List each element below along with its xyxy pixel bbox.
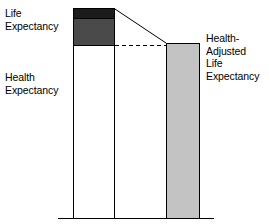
label-health-expectancy: Health Expectancy	[5, 71, 69, 96]
label-life-expectancy: Life Expectancy	[5, 7, 69, 32]
label-health-adjusted-life-expectancy: Health- Adjusted Life Expectancy	[206, 32, 268, 82]
bar-life-expectancy	[74, 9, 115, 219]
segment-severe-ill-health	[74, 9, 115, 19]
health-expectancy-diagram: Life Expectancy Health Expectancy Health…	[0, 0, 269, 224]
segment-ill-health	[74, 18, 115, 45]
segment-health-expectancy	[74, 45, 115, 218]
bar-health-adjusted-life-expectancy	[167, 44, 200, 219]
